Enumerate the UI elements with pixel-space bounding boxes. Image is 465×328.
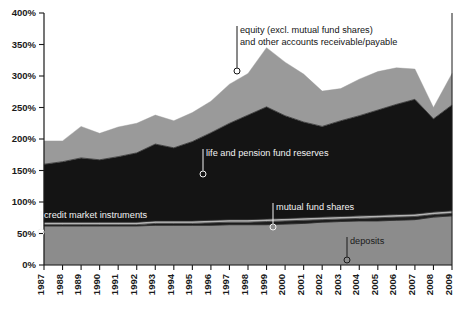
x-tick-label: 1988: [54, 274, 65, 295]
x-tick-label: 1995: [183, 273, 194, 295]
x-tick-label: 1994: [165, 273, 176, 295]
annotation-label: and other accounts receivable/payable: [240, 37, 397, 47]
x-tick-label: 1992: [128, 274, 139, 295]
y-tick-label: 350%: [12, 39, 37, 50]
x-tick-label: 2004: [350, 273, 361, 295]
x-axis-ticks: 1987198819891990199119921993199419951996…: [35, 265, 454, 295]
annotation-marker: [234, 68, 240, 74]
x-tick-label: 1987: [35, 274, 46, 295]
x-tick-label: 1999: [258, 274, 269, 295]
x-tick-label: 2000: [276, 274, 287, 295]
area-series-life-and-pension: [44, 99, 452, 222]
x-tick-label: 2007: [406, 274, 417, 295]
y-tick-label: 100%: [12, 196, 37, 207]
y-tick-label: 250%: [12, 102, 37, 113]
x-tick-label: 1996: [202, 274, 213, 295]
x-tick-label: 1997: [220, 274, 231, 295]
stacked-area-chart: 0%50%100%150%200%250%300%350%400%1987198…: [0, 0, 465, 328]
y-tick-label: 50%: [17, 228, 37, 239]
y-tick-label: 0%: [22, 259, 36, 270]
annotation-label: life and pension fund reserves: [206, 148, 329, 158]
x-tick-label: 2003: [332, 274, 343, 295]
x-tick-label: 2001: [295, 273, 306, 295]
chart-canvas: 0%50%100%150%200%250%300%350%400%1987198…: [0, 0, 465, 328]
y-tick-label: 300%: [12, 70, 37, 81]
annotation-label: deposits: [350, 236, 385, 246]
annotation-label: mutual fund shares: [276, 202, 355, 212]
x-tick-label: 1991: [109, 273, 120, 295]
x-tick-label: 2002: [313, 274, 324, 295]
annotation-marker: [38, 229, 44, 235]
x-tick-label: 2009: [443, 274, 454, 295]
x-tick-label: 2005: [369, 273, 380, 295]
y-tick-label: 200%: [12, 133, 37, 144]
x-tick-label: 2008: [424, 274, 435, 295]
annotation-label: equity (excl. mutual fund shares): [240, 25, 373, 35]
x-tick-label: 1990: [91, 274, 102, 295]
y-tick-label: 150%: [12, 165, 37, 176]
y-tick-label: 400%: [12, 7, 37, 18]
x-tick-label: 1993: [146, 274, 157, 295]
x-tick-label: 1998: [239, 274, 250, 295]
x-tick-label: 1989: [72, 274, 83, 295]
annotation-label: credit market instruments: [44, 210, 148, 220]
y-axis-ticks: 0%50%100%150%200%250%300%350%400%: [12, 7, 44, 270]
x-tick-label: 2006: [387, 274, 398, 295]
